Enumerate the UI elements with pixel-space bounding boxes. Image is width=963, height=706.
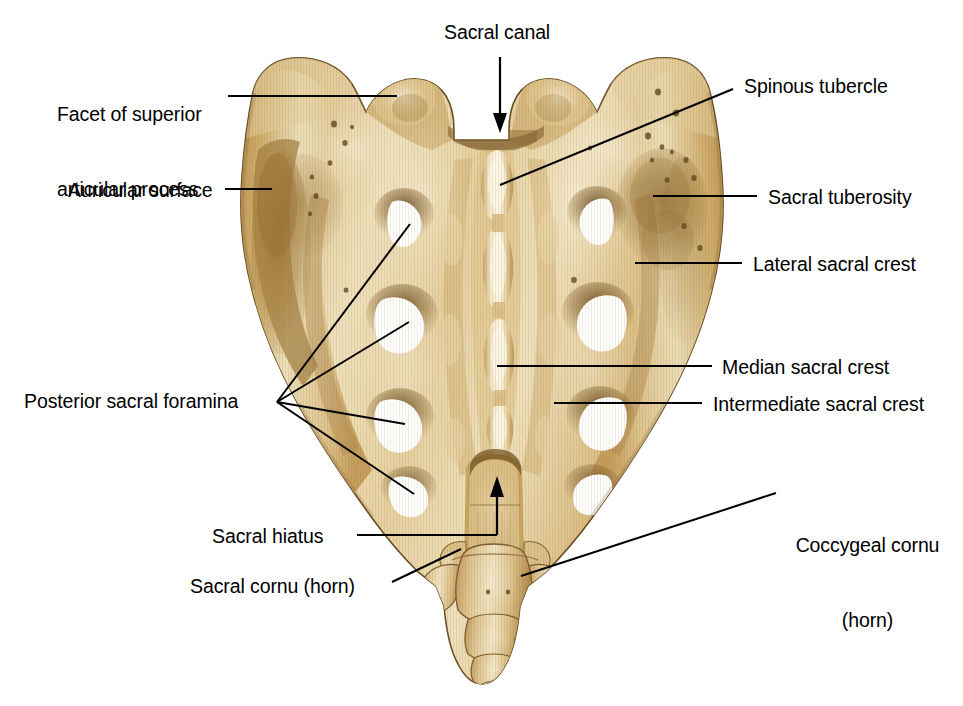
label-sacral-canal: Sacral canal [444, 20, 550, 45]
sacrum-anatomical-figure: Facet of superior articular process Auri… [0, 0, 963, 706]
label-intermediate-sacral-crest: Intermediate sacral crest [713, 392, 924, 417]
label-sacral-hiatus: Sacral hiatus [212, 524, 323, 549]
label-facet-of-superior-articular-process: Facet of superior articular process [57, 52, 202, 252]
label-lateral-sacral-crest: Lateral sacral crest [753, 252, 916, 277]
label-sacral-cornu-horn: Sacral cornu (horn) [190, 574, 355, 599]
label-sacral-tuberosity: Sacral tuberosity [768, 185, 912, 210]
label-coccygeal-cornu-horn: Coccygeal cornu (horn) [785, 483, 950, 683]
label-spinous-tubercle: Spinous tubercle [744, 74, 888, 99]
label-auricular-surface: Auricular surface [68, 178, 213, 203]
label-posterior-sacral-foramina: Posterior sacral foramina [24, 389, 238, 414]
label-median-sacral-crest: Median sacral crest [722, 355, 889, 380]
